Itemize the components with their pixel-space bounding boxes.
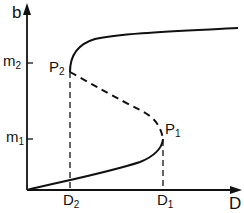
tick-label-D2-sub: 2 xyxy=(74,199,80,210)
tick-label-m2-sub: 2 xyxy=(16,60,22,71)
tick-label-D1-sub: 1 xyxy=(168,199,174,210)
point-label-P2-base: P xyxy=(49,58,59,75)
x-axis-label: D xyxy=(229,195,241,212)
x-axis-arrow-icon xyxy=(230,186,242,194)
y-axis-label: b xyxy=(12,4,21,21)
tick-label-m1-sub: 1 xyxy=(19,136,25,147)
point-label-P1-base: P xyxy=(165,120,175,137)
tick-label-D2: D2 xyxy=(63,192,79,210)
point-label-P1-sub: 1 xyxy=(175,128,181,139)
tick-label-m1: m1 xyxy=(6,129,24,147)
tick-label-m2-base: m xyxy=(3,52,16,69)
point-label-P2: P2 xyxy=(49,59,65,77)
hysteresis-diagram xyxy=(0,0,244,213)
tick-label-D1-base: D xyxy=(157,191,168,208)
tick-label-m2: m2 xyxy=(3,53,21,71)
point-label-P2-sub: 2 xyxy=(59,66,65,77)
lower-stable-branch xyxy=(27,139,163,190)
y-axis-arrow-icon xyxy=(23,3,31,15)
tick-label-m1-base: m xyxy=(6,128,19,145)
point-label-P1: P1 xyxy=(165,121,181,139)
tick-label-D2-base: D xyxy=(63,191,74,208)
upper-stable-branch xyxy=(70,28,238,72)
unstable-branch xyxy=(70,72,163,139)
tick-label-D1: D1 xyxy=(157,192,173,210)
